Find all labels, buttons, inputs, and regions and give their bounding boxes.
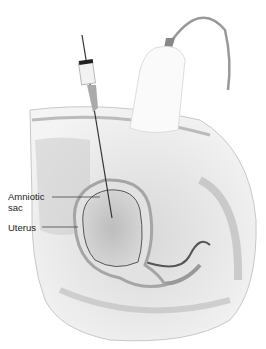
label-amniotic-sac: Amniotic sac	[8, 191, 44, 213]
label-uterus: Uterus	[8, 222, 36, 233]
ultrasound-transducer	[130, 18, 229, 133]
amniotic-sac-shape	[83, 190, 142, 267]
amniocentesis-illustration	[0, 0, 266, 349]
